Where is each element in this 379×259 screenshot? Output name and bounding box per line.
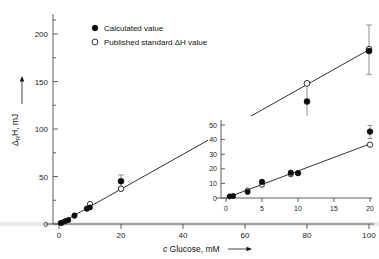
main-y-tick-200: 200 xyxy=(35,30,49,39)
x-title-rest: Glucose, mM xyxy=(167,244,219,254)
main-y-tick-100: 100 xyxy=(35,125,49,134)
main-x-tick-20: 20 xyxy=(117,231,126,240)
inset-y-tick-30: 30 xyxy=(209,151,217,158)
inset-x-tick-10: 10 xyxy=(294,205,302,212)
inset-y-tick-0: 0 xyxy=(213,195,217,202)
main-y-tick-150: 150 xyxy=(35,78,49,87)
main-y-tick-0: 0 xyxy=(44,220,49,229)
inset-y-tick-20: 20 xyxy=(209,165,217,172)
main-x-tick-0: 0 xyxy=(57,231,62,240)
inset-x-tick-20: 20 xyxy=(366,205,374,212)
main-x-tick-40: 40 xyxy=(179,231,188,240)
y-title-rest: H, mJ xyxy=(10,114,20,136)
inset-x-tick-15: 15 xyxy=(330,205,338,212)
chart-svg: 0 50 100 150 200 0 20 40 60 80 100 xyxy=(0,0,379,259)
main-x-tick-60: 60 xyxy=(241,231,250,240)
inset-background xyxy=(208,116,374,206)
inset-x-tick-0: 0 xyxy=(224,205,228,212)
main-y-axis-title-text: ΔRH, mJ xyxy=(10,114,21,146)
legend-marker-open-circle-icon xyxy=(92,39,98,45)
inset-plot: 0 10 20 30 40 50 0 5 10 15 20 xyxy=(208,116,374,212)
inset-y-tick-10: 10 xyxy=(209,180,217,187)
legend-label-calculated: Calculated value xyxy=(104,24,164,33)
main-x-tick-100: 100 xyxy=(362,231,376,240)
main-x-tick-80: 80 xyxy=(303,231,312,240)
legend-label-published-standard: Published standard ΔH value xyxy=(104,38,208,47)
inset-x-tick-5: 5 xyxy=(260,205,264,212)
legend-marker-filled-circle-icon xyxy=(92,25,98,31)
main-x-axis-title-text: c Glucose, mM xyxy=(163,244,220,254)
inset-y-tick-40: 40 xyxy=(209,136,217,143)
figure-container: 0 50 100 150 200 0 20 40 60 80 100 xyxy=(0,0,379,259)
main-y-tick-50: 50 xyxy=(39,173,48,182)
inset-y-tick-50: 50 xyxy=(209,122,217,129)
